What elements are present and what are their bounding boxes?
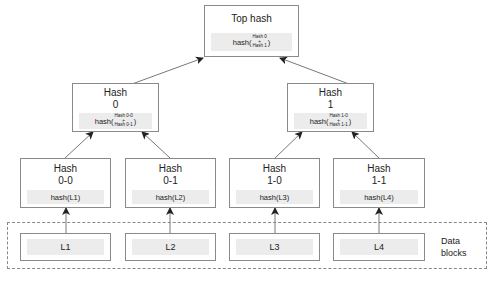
formula-suffix: ) [349,117,352,126]
data-block-l3: L3 [229,233,320,261]
formula-fraction: Hash 0-0 + Hash 0-1 [115,114,133,128]
formula-prefix: hash( [233,38,252,47]
hash-1-formula: hash( Hash 1-0 + Hash 1-1 ) [294,113,367,129]
hash-0-title: Hash 0 [73,87,158,111]
hash-0-1-node: Hash 0-1 hash(L2) [125,158,216,208]
formula-suffix: ) [134,117,137,126]
hash-1-title-line2: 1 [288,99,373,111]
formula-fraction: Hash 0 + Hash 1 [253,35,267,49]
hash-1-0-node: Hash 1-0 hash(L3) [229,158,320,208]
data-block-l2: L2 [125,233,216,261]
data-block-l3-label: L3 [236,239,313,255]
formula-bottom: Hash 1-1 [330,123,348,128]
hash-0-1-title-line1: Hash [126,163,215,175]
hash-1-node: Hash 1 hash( Hash 1-0 + Hash 1-1 ) [287,83,374,132]
hash-1-1-title-line1: Hash [334,163,424,175]
hash-1-title-line1: Hash [288,87,373,99]
data-block-l4: L4 [333,233,425,261]
data-block-l1: L1 [20,233,111,261]
hash-0-node: Hash 0 hash( Hash 0-0 + Hash 0-1 ) [72,83,159,132]
data-blocks-label-line2: blocks [441,247,467,259]
hash-1-1-title-line2: 1-1 [334,175,424,187]
hash-1-1-title: Hash 1-1 [334,163,424,187]
edge-hash01-to-hash0 [142,132,170,158]
top-hash-node: Top hash hash( Hash 0 + Hash 1 ) [204,5,299,57]
top-hash-title: Top hash [205,13,298,25]
hash-0-0-formula: hash(L1) [27,190,104,204]
hash-0-title-line1: Hash [73,87,158,99]
hash-1-1-node: Hash 1-1 hash(L4) [333,158,425,208]
hash-0-1-formula: hash(L2) [132,190,209,204]
edge-hash0-to-top [132,58,203,84]
data-blocks-label-line1: Data [441,235,467,247]
hash-1-title: Hash 1 [288,87,373,111]
hash-0-1-title-line2: 0-1 [126,175,215,187]
edge-hash1-to-top [280,58,349,84]
hash-0-title-line2: 0 [73,99,158,111]
hash-1-0-formula: hash(L3) [236,190,313,204]
hash-0-1-title: Hash 0-1 [126,163,215,187]
hash-0-0-title-line1: Hash [21,163,110,175]
edge-hash10-to-hash1 [275,132,302,158]
formula-fraction: Hash 1-0 + Hash 1-1 [330,114,348,128]
data-block-l4-label: L4 [340,239,418,255]
hash-0-formula: hash( Hash 0-0 + Hash 0-1 ) [79,113,152,129]
edge-hash00-to-hash0 [65,132,93,158]
data-blocks-label: Data blocks [441,235,467,259]
hash-0-0-title-line2: 0-0 [21,175,110,187]
edge-hash11-to-hash1 [352,132,379,158]
data-block-l2-label: L2 [132,239,209,255]
formula-bottom: Hash 1 [253,44,267,49]
data-block-l1-label: L1 [27,239,104,255]
hash-0-0-title: Hash 0-0 [21,163,110,187]
hash-1-1-formula: hash(L4) [340,190,418,204]
formula-prefix: hash( [95,117,114,126]
top-hash-formula: hash( Hash 0 + Hash 1 ) [211,33,292,51]
hash-1-0-title-line2: 1-0 [230,175,319,187]
formula-prefix: hash( [310,117,329,126]
hash-1-0-title-line1: Hash [230,163,319,175]
formula-suffix: ) [268,38,271,47]
hash-0-0-node: Hash 0-0 hash(L1) [20,158,111,208]
formula-bottom: Hash 0-1 [115,123,133,128]
hash-1-0-title: Hash 1-0 [230,163,319,187]
